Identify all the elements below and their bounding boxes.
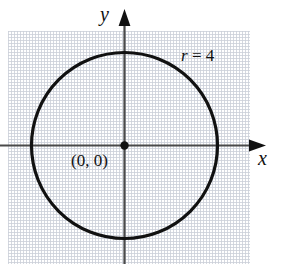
radius-value: 4: [206, 46, 215, 65]
y-axis-arrowhead: [119, 9, 131, 26]
origin-point: [120, 141, 128, 149]
x-axis-label: x: [258, 148, 267, 168]
coordinate-plot: [0, 0, 281, 264]
y-axis-label: y: [100, 4, 109, 24]
figure-canvas: y x (0, 0) r = 4: [0, 0, 281, 264]
origin-label: (0, 0): [71, 152, 108, 169]
radius-variable: r: [181, 46, 188, 65]
radius-annotation: r = 4: [181, 47, 214, 64]
